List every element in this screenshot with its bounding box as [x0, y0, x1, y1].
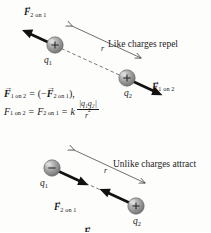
charge-sphere-q2-positive: [119, 70, 135, 86]
label-separation-r-attract: r: [104, 167, 107, 175]
label-force-2-on-1-repel: →F2 on 1: [24, 8, 211, 18]
eq2-coulomb-constant: k: [70, 106, 74, 117]
label-force-1-on-2-attract: →F1 on 2: [84, 228, 211, 233]
eq2-equals-1: =: [26, 106, 38, 117]
eq1-lhs-vector: →F: [4, 88, 11, 99]
label-force-2-on-1-attract: →F2 on 1: [54, 203, 211, 213]
vector-arrow-icon: →: [4, 83, 12, 92]
force-arrow-on-q1-attract: [58, 171, 89, 185]
eq2-fraction: |q₁q₂| r2: [77, 100, 99, 120]
force-arrow-on-q2-attract: [100, 189, 131, 203]
label-q1-repel: q1: [44, 56, 52, 66]
equation-block: →F1 on 2 = (− →F2 on 1 ), F1 on 2 = F2 o…: [4, 86, 154, 121]
charge-sphere-q1-negative: [44, 160, 60, 176]
eq1-rhs-vector: →F: [47, 88, 54, 99]
eq2-denominator: r2: [83, 110, 93, 120]
label-q1-attract: q1: [40, 179, 48, 189]
label-q2-attract: q2: [133, 217, 141, 227]
eq2-equals-2: =: [59, 106, 71, 117]
eq1-open-paren: (−: [38, 88, 47, 99]
label-force-1-on-2-repel: →F1 on 2: [152, 83, 211, 93]
eq1-equals: =: [26, 88, 38, 99]
caption-like-charges-repel: Like charges repel: [108, 40, 178, 50]
eq1-close-paren: ),: [69, 88, 75, 99]
equation-line-2: F1 on 2 = F2 on 1 = k |q₁q₂| r2: [4, 101, 154, 121]
charge-sphere-q1-positive: [47, 37, 63, 53]
charge-separation-dashed-line: [56, 46, 126, 78]
vector-arrow-icon: →: [47, 83, 55, 92]
coulomb-law-figure: →F2 on 1 q1 r Like charges repel →F1 on …: [0, 0, 211, 232]
label-separation-r-repel: r: [101, 45, 104, 53]
caption-unlike-charges-attract: Unlike charges attract: [113, 160, 196, 170]
